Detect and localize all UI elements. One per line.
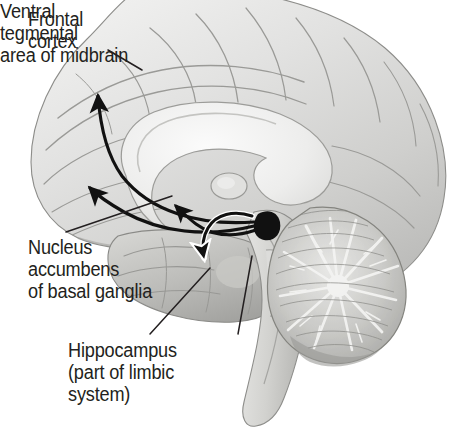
label-nucleus-accumbens: Nucleus accumbens of basal ganglia [28,236,152,302]
thalamus [211,173,247,199]
label-hippocampus: Hippocampus (part of limbic system) [68,339,177,405]
vta-origin-node [254,211,281,240]
brain-diagram-figure: Frontal cortex Nucleus accumbens of basa… [0,0,473,428]
label-ventral-tegmental-area: Ventral tegmental area of midbrain [0,0,128,66]
